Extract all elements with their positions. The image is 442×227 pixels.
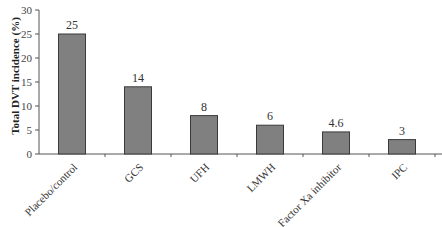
bar	[59, 34, 86, 154]
x-category-label: Placebo/control	[22, 161, 79, 218]
chart-canvas: 05101520253025Placebo/control14GCS8UFH6L…	[0, 0, 442, 227]
bar-value-label: 6	[267, 109, 273, 123]
bar-value-label: 14	[132, 71, 144, 85]
bar-value-label: 25	[66, 18, 78, 32]
y-tick-label: 20	[21, 52, 33, 64]
y-tick-label: 25	[21, 28, 33, 40]
bar	[257, 125, 284, 154]
bar-value-label: 8	[201, 100, 207, 114]
bar-chart: 05101520253025Placebo/control14GCS8UFH6L…	[0, 0, 442, 227]
bar	[125, 87, 152, 154]
x-category-label: UFH	[187, 161, 211, 185]
bar	[389, 140, 416, 154]
x-category-label: LMWH	[244, 161, 277, 194]
y-tick-label: 10	[21, 100, 33, 112]
y-axis-label: Total DVT incidence (%)	[9, 1, 21, 151]
x-category-label: GCS	[122, 161, 146, 185]
y-tick-label: 30	[21, 4, 33, 16]
bar-value-label: 4.6	[329, 116, 344, 130]
y-tick-label: 0	[27, 148, 33, 160]
bar	[191, 116, 218, 154]
bar-value-label: 3	[399, 124, 405, 138]
x-category-label: Factor Xa inhibitor	[275, 161, 343, 227]
x-category-label: IPC	[389, 161, 410, 182]
bar	[323, 132, 350, 154]
y-tick-label: 15	[21, 76, 33, 88]
y-tick-label: 5	[27, 124, 33, 136]
